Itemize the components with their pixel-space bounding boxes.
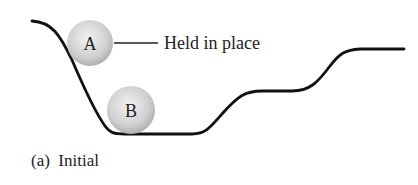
ball-a: A	[67, 20, 113, 66]
ball-b-label: B	[125, 101, 137, 121]
figure-caption: (a) Initial	[31, 151, 99, 170]
ball-a-label: A	[84, 34, 97, 54]
held-in-place-label: Held in place	[164, 33, 260, 53]
ball-b: B	[107, 86, 155, 134]
energy-landscape-diagram: A Held in place B (a) Initial	[0, 0, 418, 185]
